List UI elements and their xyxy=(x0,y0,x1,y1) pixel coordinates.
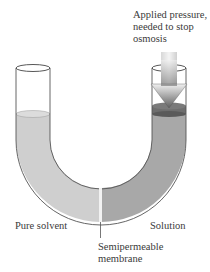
left-tube-rim xyxy=(16,65,50,72)
pure-solvent-surface xyxy=(16,111,50,118)
solution-liquid xyxy=(100,112,186,222)
pure-solvent-label: Pure solvent xyxy=(15,220,67,232)
semipermeable-membrane xyxy=(99,188,102,222)
solution-label: Solution xyxy=(150,220,186,232)
semipermeable-membrane-label: Semipermeable membrane xyxy=(98,241,163,265)
membrane-label-line-2: membrane xyxy=(98,253,163,265)
membrane-label-line-1: Semipermeable xyxy=(98,241,163,253)
glass-outline-inner xyxy=(50,68,152,189)
down-arrow-icon xyxy=(151,52,187,108)
pressure-label-line-1: Applied pressure, xyxy=(133,9,207,21)
piston-bottom xyxy=(152,111,186,117)
pressure-label-line-3: osmosis xyxy=(133,33,207,45)
pressure-label-line-2: needed to stop xyxy=(133,21,207,33)
applied-pressure-label: Applied pressure, needed to stop osmosis xyxy=(133,9,207,45)
pure-solvent-liquid xyxy=(16,114,100,222)
